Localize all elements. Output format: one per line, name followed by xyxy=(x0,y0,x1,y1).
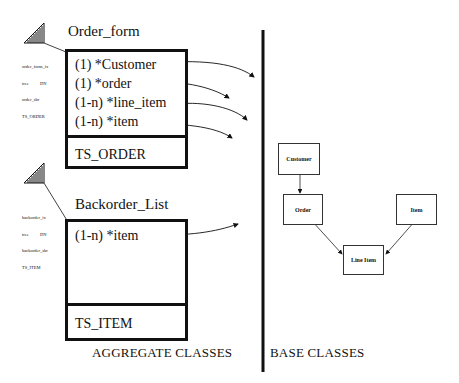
storage-label: TS_ORDER xyxy=(75,147,146,163)
attribute: (1-n) *item xyxy=(75,114,138,130)
attribute: (1-n) *item xyxy=(75,228,138,244)
base-class-customer[interactable]: Customer xyxy=(278,143,320,175)
relation-item-lineitem xyxy=(386,221,415,254)
relation-order-lineitem xyxy=(312,221,342,254)
section-label-base: BASE CLASSES xyxy=(270,345,365,361)
class-title: Backorder_List xyxy=(75,196,168,213)
index-meta: backorder_ix tree DN backorder_sbr TS_IT… xyxy=(22,204,48,281)
class-box[interactable]: (1-n) *item TS_ITEM xyxy=(65,219,188,341)
attribute: (1-n) *line_item xyxy=(75,95,166,111)
storage-label: TS_ITEM xyxy=(75,316,133,332)
index-triangle-icon xyxy=(24,23,66,52)
base-class-item[interactable]: Item xyxy=(396,194,437,225)
attribute: (1) *Customer xyxy=(75,57,156,73)
attribute: (1) *order xyxy=(75,76,131,92)
box-divider xyxy=(68,135,185,138)
class-title: Order_form xyxy=(68,23,140,40)
class-box[interactable]: (1) *Customer (1) *order (1-n) *line_ite… xyxy=(65,49,188,169)
base-class-order[interactable]: Order xyxy=(283,194,323,225)
base-class-line-item[interactable]: Line Item xyxy=(343,245,384,275)
box-divider xyxy=(68,303,185,306)
section-label-aggregate: AGGREGATE CLASSES xyxy=(92,345,232,361)
index-meta: order_form_ix tree DN order_sbr TS_ORDER xyxy=(22,53,48,130)
